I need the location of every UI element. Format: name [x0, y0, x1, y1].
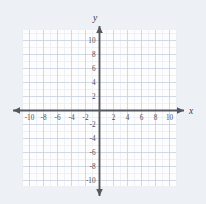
y-tick-label--8: -8 — [90, 163, 96, 171]
y-tick-label--4: -4 — [90, 135, 96, 143]
x-tick-label--4: -4 — [69, 114, 75, 122]
y-tick-label--6: -6 — [90, 149, 96, 157]
x-tick-label--6: -6 — [55, 114, 61, 122]
x-axis-label: x — [188, 106, 194, 116]
x-tick-label--10: -10 — [25, 114, 35, 122]
x-tick-label-8: 8 — [154, 114, 158, 122]
y-tick-label-10: 10 — [88, 37, 96, 45]
x-tick-label--2: -2 — [83, 114, 89, 122]
x-tick-label-2: 2 — [112, 114, 116, 122]
y-tick-label--10: -10 — [86, 177, 96, 185]
coordinate-grid-figure: -10-8-6-4-2246810 108642-2-4-6-8-10 y x — [0, 0, 206, 204]
x-tick-label-6: 6 — [140, 114, 144, 122]
y-tick-label-6: 6 — [92, 65, 96, 73]
y-axis-label: y — [92, 13, 98, 23]
coordinate-plane: -10-8-6-4-2246810 108642-2-4-6-8-10 y x — [0, 0, 206, 204]
y-tick-label--2: -2 — [90, 121, 96, 129]
y-tick-label-2: 2 — [92, 93, 96, 101]
x-tick-label-4: 4 — [126, 114, 130, 122]
x-tick-label--8: -8 — [41, 114, 47, 122]
y-tick-label-4: 4 — [92, 79, 96, 87]
x-tick-label-10: 10 — [166, 114, 174, 122]
y-tick-label-8: 8 — [92, 51, 96, 59]
